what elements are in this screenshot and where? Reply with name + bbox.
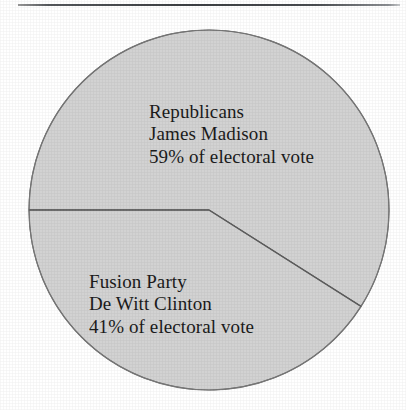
republicans-party-name: Republicans [149, 101, 314, 123]
republicans-candidate-name: James Madison [149, 123, 314, 145]
fusion-party-name: Fusion Party [89, 271, 254, 293]
pie-chart-graphic [0, 0, 406, 410]
pie-chart-figure: Republicans James Madison 59% of elector… [0, 0, 406, 410]
fusion-slice-label: Fusion Party De Witt Clinton 41% of elec… [89, 271, 254, 338]
republicans-slice-label: Republicans James Madison 59% of elector… [149, 101, 314, 168]
fusion-vote-share: 41% of electoral vote [89, 316, 254, 338]
republicans-vote-share: 59% of electoral vote [149, 146, 314, 168]
fusion-candidate-name: De Witt Clinton [89, 293, 254, 315]
